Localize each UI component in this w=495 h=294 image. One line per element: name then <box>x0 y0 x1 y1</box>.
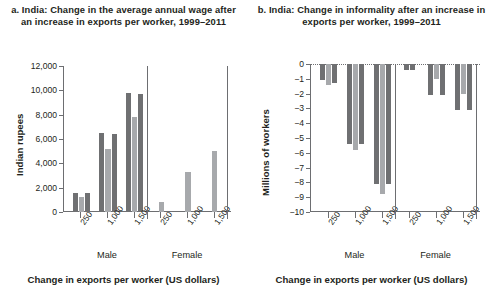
panel-b-x-axis-title: Change in exports per worker (US dollars… <box>248 274 495 285</box>
panel-b-y-tick-label: −9 <box>294 192 304 202</box>
panel-a-group-separator <box>227 66 228 219</box>
panel-a-y-tick-label: 8,000 <box>35 110 57 120</box>
panel-b-y-axis-label: Millions of workers <box>260 109 271 196</box>
bar <box>159 202 164 212</box>
bar <box>410 64 415 70</box>
bar <box>326 64 331 85</box>
bar <box>347 64 352 144</box>
panel-a-y-tick <box>59 163 63 164</box>
panel-b-y-tick <box>306 138 310 139</box>
panel-b-y-tick-label: 0 <box>299 59 304 69</box>
panel-a-y-tick <box>59 115 63 116</box>
panel-a-y-tick-label: 2,000 <box>35 183 57 193</box>
panel-a-plot-area: 02,0004,0006,0008,00010,00012,0002501,00… <box>63 66 231 212</box>
panel-a-y-tick-label: 6,000 <box>35 134 57 144</box>
panel-b-y-tick-label: −5 <box>294 133 304 143</box>
panel-a-y-tick-label: 0 <box>52 207 57 217</box>
bar <box>99 133 104 212</box>
panel-a-group-label: Male <box>97 250 117 260</box>
panel-b-y-tick-label: −10 <box>289 207 304 217</box>
panel-b: b. India: Change in informality after an… <box>248 0 495 294</box>
figure: a. India: Change in the average annual w… <box>0 0 495 294</box>
panel-a-y-axis-label: Indian rupees <box>14 114 25 176</box>
panel-a-y-tick-label: 10,000 <box>31 85 57 95</box>
panel-b-y-tick <box>306 182 310 183</box>
panel-b-y-tick <box>306 153 310 154</box>
bar <box>320 64 325 80</box>
bar <box>138 94 143 212</box>
bar <box>455 64 460 110</box>
bar <box>353 64 358 150</box>
panel-a-y-tick <box>59 139 63 140</box>
bar <box>386 64 391 184</box>
bar <box>440 64 445 95</box>
bar <box>374 64 379 184</box>
panel-b-y-tick <box>306 94 310 95</box>
bar <box>212 151 217 212</box>
panel-a-group-label: Female <box>172 250 203 260</box>
bar <box>461 64 466 94</box>
panel-a-group-separator <box>147 66 148 219</box>
bar <box>126 93 131 212</box>
bar <box>332 64 337 83</box>
bar <box>185 172 190 212</box>
panel-a-title: a. India: Change in the average annual w… <box>8 4 239 28</box>
panel-b-y-tick <box>306 168 310 169</box>
panel-a-y-tick <box>59 90 63 91</box>
panel-a-y-tick <box>59 66 63 67</box>
bar <box>404 64 409 70</box>
bar <box>434 64 439 79</box>
bar <box>380 64 385 194</box>
panel-a-y-tick <box>59 188 63 189</box>
panel-b-y-tick-label: −7 <box>294 163 304 173</box>
panel-b-y-tick-label: −1 <box>294 74 304 84</box>
panel-a-y-tick-label: 4,000 <box>35 158 57 168</box>
panel-b-group-separator <box>476 64 477 219</box>
panel-b-y-tick <box>306 212 310 213</box>
panel-a-y-tick <box>59 212 63 213</box>
panel-b-title: b. India: Change in informality after an… <box>256 4 487 28</box>
panel-b-y-tick <box>306 197 310 198</box>
bar <box>73 193 78 212</box>
panel-b-y-tick <box>306 64 310 65</box>
panel-b-group-label: Female <box>420 250 451 260</box>
panel-b-y-tick <box>306 123 310 124</box>
panel-b-y-tick-label: −6 <box>294 148 304 158</box>
panel-b-y-tick-label: −3 <box>294 103 304 113</box>
panel-b-plot-area: 0−1−2−3−4−5−6−7−8−9−102501,0001,5002501,… <box>310 64 480 212</box>
panel-b-group-label: Male <box>345 250 365 260</box>
bar <box>428 64 433 95</box>
panel-b-y-tick <box>306 79 310 80</box>
panel-b-group-separator <box>395 64 396 219</box>
panel-b-y-tick <box>306 108 310 109</box>
panel-a-x-axis-title: Change in exports per worker (US dollars… <box>0 274 247 285</box>
panel-a: a. India: Change in the average annual w… <box>0 0 247 294</box>
bar <box>132 117 137 212</box>
bar <box>467 64 472 110</box>
panel-b-y-tick-label: −8 <box>294 177 304 187</box>
panel-b-y-tick-label: −2 <box>294 89 304 99</box>
panel-b-y-tick-label: −4 <box>294 118 304 128</box>
bar <box>359 64 364 144</box>
bar <box>79 197 84 212</box>
panel-a-y-tick-label: 12,000 <box>31 61 57 71</box>
bar <box>105 149 110 212</box>
bar <box>112 134 117 212</box>
